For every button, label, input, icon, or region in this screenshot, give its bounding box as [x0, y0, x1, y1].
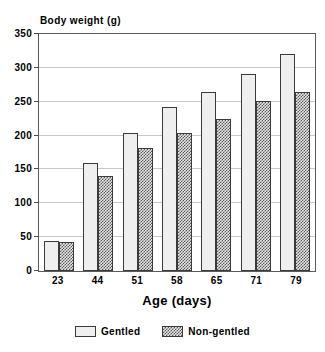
bar-non-gentled-51	[138, 148, 153, 271]
legend-item: Non-gentled	[162, 326, 250, 337]
bar-gentled-51	[123, 133, 138, 271]
bar-gentled-71	[241, 74, 256, 271]
y-axis-tick-mark	[34, 202, 38, 203]
bar-chart-figure: Body weight (g) 050100150200250300350 23…	[0, 0, 325, 352]
y-axis-tick-label: 350	[2, 28, 32, 39]
bar-gentled-79	[280, 54, 295, 271]
y-axis-tick-label: 200	[2, 129, 32, 140]
y-axis-tick-mark	[34, 33, 38, 34]
x-axis-tick-label: 58	[161, 275, 193, 286]
bar-group	[201, 34, 231, 271]
bar-non-gentled-44	[98, 176, 113, 271]
y-axis-tick-label: 50	[2, 231, 32, 242]
legend-label: Non-gentled	[188, 326, 250, 337]
bar-gentled-23	[44, 241, 59, 271]
y-axis-tick-label: 250	[2, 95, 32, 106]
y-axis-tick-mark	[34, 270, 38, 271]
bar-group	[241, 34, 271, 271]
legend-label: Gentled	[101, 326, 140, 337]
y-axis-tick-label: 150	[2, 163, 32, 174]
x-axis-tick-label: 51	[121, 275, 153, 286]
bar-non-gentled-23	[59, 242, 74, 271]
bar-group	[44, 34, 74, 271]
x-axis-tick-label: 79	[280, 275, 312, 286]
y-axis-tick-mark	[34, 101, 38, 102]
bar-gentled-58	[162, 107, 177, 271]
y-axis-tick-mark	[34, 168, 38, 169]
bar-groups	[39, 34, 315, 271]
bar-non-gentled-65	[216, 119, 231, 271]
x-axis-title: Age (days)	[38, 293, 316, 308]
bar-non-gentled-58	[177, 133, 192, 271]
y-axis-tick-mark	[34, 135, 38, 136]
x-axis-tick-label: 23	[42, 275, 74, 286]
legend-item: Gentled	[75, 326, 140, 337]
plot-area	[38, 33, 316, 272]
chart-legend: GentledNon-gentled	[0, 326, 325, 337]
bar-gentled-44	[83, 163, 98, 271]
bar-group	[83, 34, 113, 271]
x-axis-tick-label: 65	[201, 275, 233, 286]
y-axis-tick-label: 100	[2, 197, 32, 208]
y-axis-tick-label: 300	[2, 61, 32, 72]
x-axis-tick-label: 71	[240, 275, 272, 286]
bar-group	[280, 34, 310, 271]
y-axis-tick-mark	[34, 67, 38, 68]
bar-non-gentled-79	[295, 92, 310, 271]
x-axis-tick-labels: 23445158657179	[38, 275, 316, 291]
bar-gentled-65	[201, 92, 216, 271]
x-axis-tick-label: 44	[82, 275, 114, 286]
y-axis-tick-label: 0	[2, 265, 32, 276]
bar-non-gentled-71	[256, 101, 271, 271]
light-dotted-swatch	[75, 326, 96, 337]
bar-group	[162, 34, 192, 271]
y-axis-title: Body weight (g)	[40, 15, 121, 26]
dark-crosshatch-swatch	[162, 326, 183, 337]
y-axis-tick-mark	[34, 236, 38, 237]
bar-group	[123, 34, 153, 271]
